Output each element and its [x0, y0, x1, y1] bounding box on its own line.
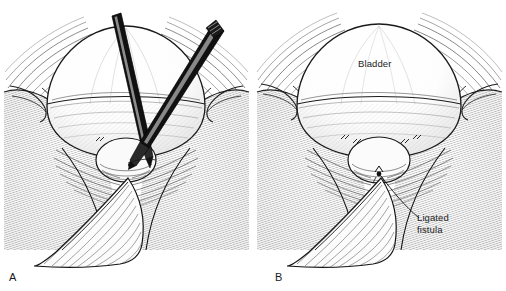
panel-b-illustration [253, 0, 506, 291]
panel-a-letter: A [9, 272, 17, 283]
bladder-label: Bladder [358, 58, 391, 70]
ligated-fistula-label-line1: Ligated [417, 212, 449, 223]
ligated-fistula-label: Ligatedfistula [417, 212, 449, 235]
figure-container: A [0, 0, 506, 291]
panel-a: A [0, 0, 253, 291]
ligated-fistula-stump [348, 137, 410, 183]
panel-a-illustration [0, 0, 253, 291]
panel-b: B [253, 0, 506, 291]
panel-b-letter: B [275, 272, 283, 283]
ligated-fistula-label-line2: fistula [417, 224, 443, 235]
